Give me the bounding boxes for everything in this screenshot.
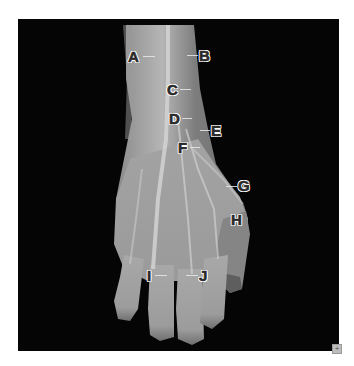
- hand-anatomy-image: [18, 19, 339, 351]
- label-g: G: [238, 178, 250, 193]
- label-j: J: [199, 268, 207, 283]
- leader-line-i: [155, 275, 167, 276]
- label-h: H: [231, 212, 242, 227]
- label-b: B: [199, 48, 210, 63]
- leader-line-c: [180, 89, 191, 90]
- label-f: F: [178, 140, 187, 155]
- label-d: D: [169, 111, 180, 126]
- plus-glyph: +: [335, 345, 340, 353]
- leader-line-a: [143, 56, 155, 57]
- label-a: A: [128, 49, 139, 64]
- plus-icon[interactable]: +: [332, 344, 342, 354]
- label-c: C: [167, 82, 178, 97]
- leader-line-d: [182, 118, 192, 119]
- image-panel: [18, 19, 339, 351]
- label-i: I: [147, 268, 151, 283]
- leader-line-f: [190, 147, 200, 148]
- leader-line-e: [200, 130, 210, 131]
- leader-line-b: [187, 55, 198, 56]
- leader-line-j: [186, 275, 198, 276]
- leader-line-g: [226, 186, 237, 187]
- label-e: E: [211, 123, 221, 138]
